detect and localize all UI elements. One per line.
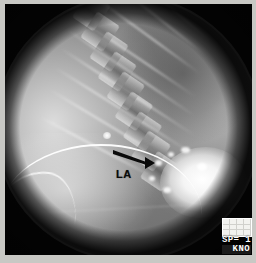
radiograph-plate — [5, 4, 252, 255]
frame-border-top — [0, 0, 256, 4]
la-label: LA — [116, 169, 132, 180]
machine-overlay-text: SP= 1 KNO — [222, 236, 251, 254]
radiograph-viewer: LA SP= 1 KNO — [0, 0, 256, 263]
annotation-arrow-icon — [112, 148, 156, 170]
overlay-line-kno: KNO — [222, 245, 251, 254]
frame-border-right — [252, 0, 256, 263]
frame-border-bottom — [0, 255, 256, 263]
collimator-rim — [5, 4, 252, 255]
fluoroscopy-field — [5, 4, 252, 255]
frame-border-left — [0, 0, 5, 263]
